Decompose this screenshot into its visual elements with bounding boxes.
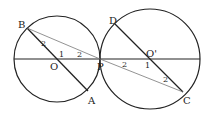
angle-label-2-at-P-right: 2 <box>122 60 127 69</box>
angle-label-1-at-O-prime: 1 <box>145 61 150 70</box>
label-C: C <box>183 95 191 106</box>
label-P: P <box>97 61 104 72</box>
angle-label-1-at-O: 1 <box>59 50 64 59</box>
angle-label-2-at-C: 2 <box>163 75 168 84</box>
label-A: A <box>87 95 96 106</box>
label-O-prime: O' <box>146 48 157 59</box>
label-D: D <box>109 15 117 26</box>
angle-label-2-at-B: 2 <box>41 39 46 48</box>
label-B: B <box>18 19 25 30</box>
chord-PC <box>100 59 183 92</box>
two-circles-diagram: B A O P D O' C 2 1 2 2 1 2 <box>0 0 204 116</box>
angle-label-2-at-P-left: 2 <box>77 50 82 59</box>
label-O: O <box>50 61 58 72</box>
